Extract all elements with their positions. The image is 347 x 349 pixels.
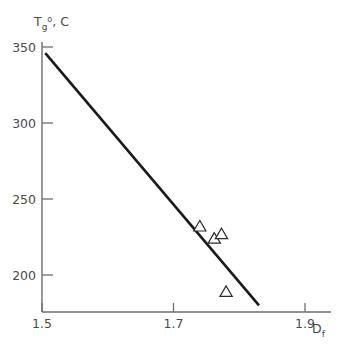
y-axis-ticks: 200250300350	[12, 40, 53, 283]
y-axis-title: Tgo, C	[33, 14, 69, 32]
data-point-triangle	[220, 286, 232, 297]
chart-container: 200250300350 1.51.71.9 Tgo, C Df	[0, 0, 347, 349]
scatter-plot: 200250300350 1.51.71.9 Tgo, C Df	[0, 0, 347, 349]
x-axis-title: Df	[312, 321, 326, 339]
y-axis-title-rest: , C	[52, 14, 69, 29]
y-tick-label: 350	[12, 40, 36, 55]
data-point-triangle	[215, 228, 227, 239]
trend-line	[45, 53, 259, 305]
x-tick-label: 1.7	[164, 316, 184, 331]
data-markers	[194, 221, 233, 297]
x-tick-label: 1.5	[32, 316, 52, 331]
y-tick-label: 250	[12, 192, 36, 207]
x-axis-title-subscript: f	[322, 329, 326, 339]
y-axis-title-main: T	[33, 14, 42, 29]
y-tick-label: 200	[12, 268, 36, 283]
trend-line-segment	[45, 53, 259, 305]
data-point-triangle	[194, 221, 206, 232]
x-axis-title-main: D	[312, 321, 322, 336]
x-axis-ticks: 1.51.71.9	[32, 303, 315, 331]
y-tick-label: 300	[12, 116, 36, 131]
